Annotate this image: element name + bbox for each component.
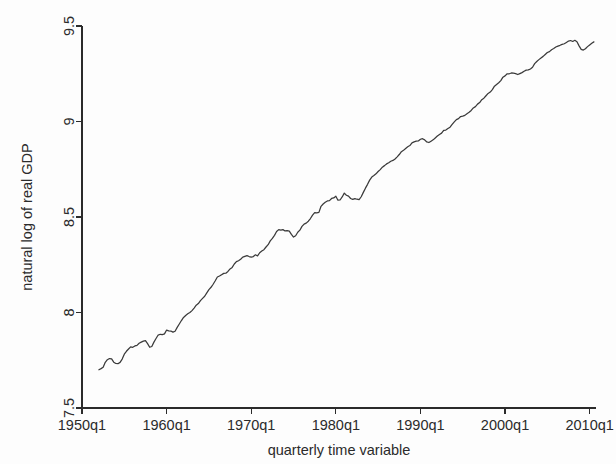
x-tick-label: 1960q1 (142, 417, 190, 433)
chart-background (0, 0, 616, 464)
x-axis-title: quarterly time variable (268, 442, 411, 458)
chart-figure: 7.588.599.5 1950q11960q11970q11980q11990… (0, 0, 616, 464)
x-tick-label: 1980q1 (312, 417, 360, 433)
x-tick-label: 1970q1 (227, 417, 275, 433)
line-chart-svg: 7.588.599.5 1950q11960q11970q11980q11990… (0, 0, 616, 464)
y-tick-label: 8 (61, 308, 77, 316)
x-tick-label: 1990q1 (396, 417, 444, 433)
y-tick-label: 7.5 (61, 398, 77, 418)
y-axis-title: natural log of real GDP (19, 143, 35, 291)
y-tick-label: 9.5 (61, 16, 77, 36)
x-tick-label: 1950q1 (58, 417, 106, 433)
y-tick-label: 9 (61, 117, 77, 125)
x-tick-label: 2010q1 (565, 417, 613, 433)
x-tick-label: 2000q1 (481, 417, 529, 433)
y-tick-label: 8.5 (61, 207, 77, 227)
